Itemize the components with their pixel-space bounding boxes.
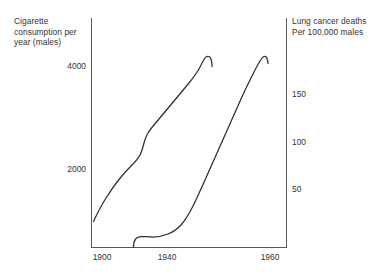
cigarette-consumption-line <box>94 56 213 221</box>
lung-cancer-deaths-line <box>134 56 269 247</box>
plot-canvas <box>0 0 388 274</box>
chart-figure: Cigarette consumption per year (males) L… <box>0 0 388 274</box>
